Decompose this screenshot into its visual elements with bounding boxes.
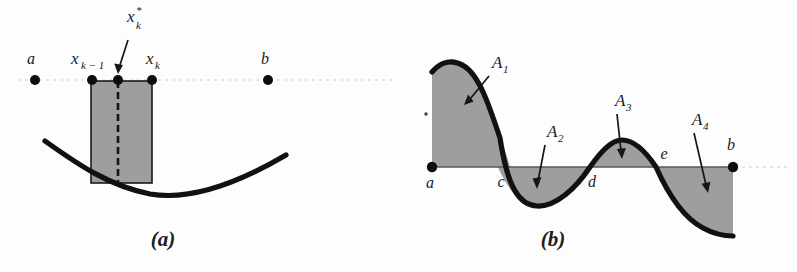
label-x-k-minus-1: x k − 1: [70, 49, 104, 71]
stray-speck: [424, 112, 427, 115]
label-x-k-minus-1-sub: k − 1: [81, 59, 104, 71]
region-label-A1-base: A: [491, 53, 503, 72]
label-x-k-star-base: x: [126, 7, 135, 26]
region-label-A2-sub: 2: [558, 132, 564, 144]
panel-a: a x k − 1 x * k x k b (a): [0, 0, 400, 272]
point-dot-x-k-star: [113, 75, 123, 85]
x-k-star-arrow-shaft: [119, 40, 128, 68]
region-label-A2-base: A: [546, 122, 558, 141]
label-b-panel-b: b: [727, 136, 735, 153]
label-a: a: [27, 50, 35, 67]
label-x-k-sub: k: [155, 59, 161, 71]
panel-b: a c d e b A 1 A 2 A 3 A 4: [390, 0, 797, 272]
region-label-A3-base: A: [614, 91, 626, 110]
label-b-a-panel: b: [261, 50, 269, 67]
point-dot-x-k: [147, 75, 157, 85]
point-dot-a: [30, 75, 40, 85]
point-dot-x-k-1: [87, 75, 97, 85]
label-x-k-minus-1-base: x: [70, 49, 79, 68]
point-dot-a-panel-b: [427, 162, 437, 172]
region-A4-fill: [654, 167, 733, 236]
region-label-A1-sub: 1: [503, 63, 509, 75]
region-A1-fill: [432, 63, 510, 167]
label-d: d: [588, 173, 597, 190]
region-label-A4-sub: 4: [703, 120, 709, 132]
label-x-k-star-sub: k: [136, 19, 142, 31]
approximating-rectangle-fill: [91, 81, 152, 183]
region-label-A4-base: A: [691, 110, 703, 129]
label-c: c: [497, 173, 504, 190]
caption-panel-a: (a): [151, 227, 176, 251]
point-dot-b: [263, 75, 273, 85]
caption-panel-b: (b): [541, 227, 566, 251]
region-label-A3-sub: 3: [625, 101, 632, 113]
x-k-star-arrow-head-icon: [114, 64, 123, 74]
label-e: e: [660, 145, 667, 162]
label-x-k-star: x * k: [114, 4, 142, 74]
label-x-k-base: x: [145, 49, 154, 68]
figure-root: a x k − 1 x * k x k b (a): [0, 0, 797, 272]
point-dot-b-panel-b: [728, 162, 738, 172]
label-x-k-star-sup: *: [136, 4, 142, 16]
function-curve-a: [45, 141, 286, 195]
label-x-k: x k: [145, 49, 161, 71]
label-a-panel-b: a: [426, 174, 434, 191]
